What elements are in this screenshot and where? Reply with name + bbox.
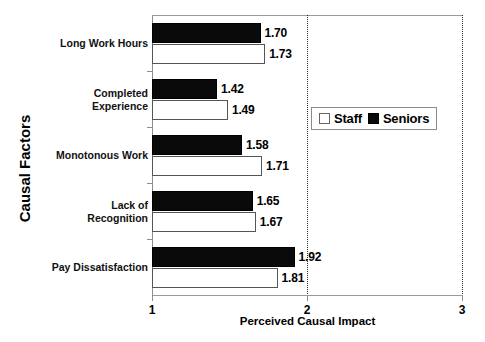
category-label-3: Lack ofRecognition [16,199,148,224]
y-axis-tick [147,127,152,128]
legend-entry-staff: Staff [319,111,362,126]
category-axis-labels: Long Work HoursCompletedExperienceMonoto… [8,0,148,342]
category-label-line: Experience [16,100,148,113]
y-axis-tick [147,239,152,240]
bar-value-seniors-1: 1.42 [221,82,244,96]
category-label-0: Long Work Hours [16,37,148,50]
bar-value-staff-1: 1.49 [232,103,255,117]
bar-seniors-2 [152,135,242,155]
bar-seniors-1 [152,79,217,99]
bar-value-staff-2: 1.71 [266,159,289,173]
plot-area: 1.701.731.421.491.581.711.651.671.921.81… [152,15,463,295]
bar-chart: Causal Factors Long Work HoursCompletedE… [0,0,485,342]
bar-staff-1 [152,100,228,120]
bar-seniors-0 [152,23,261,43]
category-label-line: Recognition [16,212,148,225]
category-label-line: Lack of [16,199,148,212]
bar-value-seniors-0: 1.70 [265,26,288,40]
bar-value-seniors-2: 1.58 [246,138,269,152]
bar-value-seniors-4: 1.92 [299,250,322,264]
category-label-line: Pay Dissatisfaction [16,261,148,274]
category-label-4: Pay Dissatisfaction [16,261,148,274]
chart-legend: StaffSeniors [311,107,437,130]
bar-staff-4 [152,268,278,288]
bar-value-staff-0: 1.73 [269,47,292,61]
legend-entry-seniors: Seniors [368,111,429,126]
category-label-line: Monotonous Work [16,149,148,162]
x-axis-tick-3 [462,295,463,301]
y-axis-tick [147,71,152,72]
category-label-2: Monotonous Work [16,149,148,162]
x-axis-tick-1 [152,295,153,301]
category-label-line: Long Work Hours [16,37,148,50]
legend-label-seniors: Seniors [383,111,429,126]
bar-value-staff-4: 1.81 [282,271,305,285]
bar-staff-0 [152,44,265,64]
category-label-line: Completed [16,87,148,100]
legend-swatch-seniors-icon [368,113,379,124]
legend-swatch-staff-icon [319,113,330,124]
bar-seniors-3 [152,191,253,211]
bar-value-seniors-3: 1.65 [257,194,280,208]
bar-staff-3 [152,212,256,232]
y-axis-tick [147,183,152,184]
gridline-x-3 [462,15,463,296]
bar-staff-2 [152,156,262,176]
bar-value-staff-3: 1.67 [260,215,283,229]
legend-label-staff: Staff [334,111,362,126]
x-axis-tick-2 [307,295,308,301]
bar-seniors-4 [152,247,295,267]
category-label-1: CompletedExperience [16,87,148,112]
x-axis-title: Perceived Causal Impact [152,315,463,327]
